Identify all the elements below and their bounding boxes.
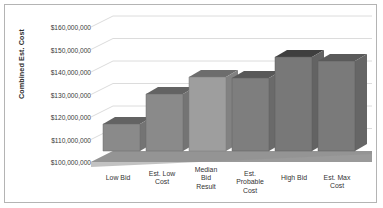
- x-axis-labels: Low Bid Est. Low Cost Median Bid Result …: [91, 168, 372, 202]
- bar-est-max-cost[interactable]: [318, 54, 367, 151]
- y-tick-label: $140,000,000: [25, 69, 91, 76]
- chart-canvas: [91, 13, 372, 167]
- y-tick-label: $160,000,000: [25, 24, 91, 31]
- bar-est-low-cost[interactable]: [146, 87, 195, 151]
- y-tick-label: $130,000,000: [25, 92, 91, 99]
- bar-high-bid[interactable]: [275, 50, 324, 151]
- y-tick-label: $150,000,000: [25, 47, 91, 54]
- bar-median-bid-result[interactable]: [189, 70, 238, 151]
- bar-est-probable-cost[interactable]: [232, 71, 281, 151]
- x-label-est-max-cost: Est. Max Cost: [306, 174, 368, 191]
- chart-frame: Combined Est. Cost $160,000,000 $150,000…: [4, 4, 377, 203]
- plot-area: [91, 13, 372, 167]
- y-tick-label: $100,000,000: [25, 159, 91, 166]
- bar-low-bid[interactable]: [103, 117, 152, 151]
- y-tick-label: $110,000,000: [25, 137, 91, 144]
- y-axis-tick-labels: $160,000,000 $150,000,000 $140,000,000 $…: [25, 5, 91, 202]
- y-tick-label: $120,000,000: [25, 114, 91, 121]
